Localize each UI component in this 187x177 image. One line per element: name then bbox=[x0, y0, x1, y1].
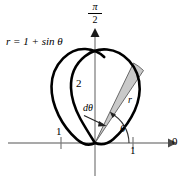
x-tick-label-left-one: 1 bbox=[56, 126, 62, 137]
y-axis-top-label: π 2 bbox=[86, 2, 104, 25]
radius-label: r bbox=[128, 95, 132, 105]
theta-label: θ bbox=[120, 123, 125, 134]
pi-denominator: 2 bbox=[86, 15, 104, 26]
x-axis-right-label: 0 bbox=[172, 136, 178, 147]
polar-cardioid-figure: r = 1 + sin θ π 2 0 2 1 1 dθ θ r bbox=[0, 0, 187, 177]
pi-numerator: π bbox=[86, 2, 104, 13]
dtheta-label: dθ bbox=[83, 103, 93, 113]
figure-canvas bbox=[0, 0, 187, 177]
x-tick-label-right-one: 1 bbox=[130, 145, 136, 156]
equation-label: r = 1 + sin θ bbox=[6, 36, 63, 47]
y-tick-label-two: 2 bbox=[76, 78, 82, 89]
y-axis-arrow-icon bbox=[91, 28, 100, 37]
